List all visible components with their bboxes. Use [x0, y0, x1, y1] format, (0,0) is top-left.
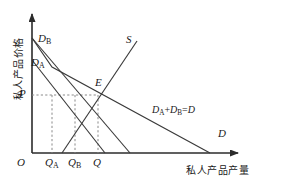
quantity-b-label: QB [68, 157, 81, 170]
demand-curve-a [32, 60, 105, 153]
axes [32, 14, 238, 153]
quantity-a-label: QA [45, 157, 59, 170]
demand-b-base: D [38, 32, 46, 44]
economics-diagram: 私人产品价格 私人产品产量 O DB DA S E DA+DB=D D P QA… [0, 0, 283, 184]
equilibrium-label: E [95, 77, 102, 88]
aggregate-demand-label: DA+DB=D [152, 105, 195, 117]
demand-b-label: DB [38, 33, 51, 46]
demand-a-subscript: A [39, 61, 45, 70]
market-demand-label: D [218, 128, 226, 139]
agg-total: D [188, 104, 195, 115]
quantity-total-label: Q [93, 157, 101, 168]
demand-b-subscript: B [46, 37, 51, 46]
qa-base: Q [45, 156, 53, 168]
price-level-label: P [19, 88, 26, 99]
qa-subscript: A [53, 161, 59, 170]
qb-subscript: B [76, 161, 81, 170]
supply-curve [62, 41, 137, 153]
origin-label: O [17, 157, 25, 168]
qb-base: Q [68, 156, 76, 168]
demand-a-label: DA [31, 57, 45, 70]
diagram-canvas [0, 0, 283, 184]
supply-label: S [126, 34, 132, 45]
demand-a-base: D [31, 56, 39, 68]
x-axis-title: 私人产品产量 [186, 166, 249, 176]
